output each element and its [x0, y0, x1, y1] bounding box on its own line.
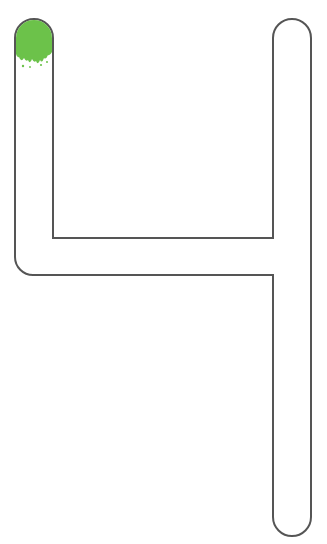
digit-four-outline	[15, 19, 311, 536]
number-four-tracing-outline	[0, 0, 327, 544]
